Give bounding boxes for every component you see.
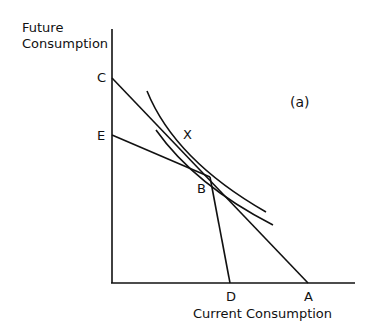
y-axis-label-line2: Consumption [22, 37, 108, 50]
point-label-a: A [304, 290, 313, 303]
budget-line-eb [112, 135, 210, 177]
x-axis-label: Current Consumption [193, 307, 332, 320]
point-label-x: X [183, 128, 192, 141]
panel-label: (a) [290, 95, 310, 109]
y-axis-label-line1: Future [22, 21, 63, 34]
point-label-e: E [97, 129, 105, 142]
point-label-d: D [226, 290, 236, 303]
indifference-curve-upper [147, 91, 266, 212]
point-label-b: B [197, 182, 206, 195]
point-label-c: C [97, 71, 106, 84]
